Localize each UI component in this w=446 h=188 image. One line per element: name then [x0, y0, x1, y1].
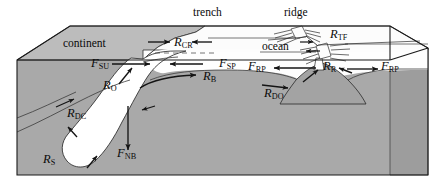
- label-continent: continent: [63, 38, 106, 50]
- block-diagram-figure: trench ridge continent ocean RCR RTF FSU…: [0, 0, 446, 188]
- label-R-TF-sub: TF: [338, 33, 348, 42]
- label-F-SU: FSU: [91, 57, 109, 70]
- label-F-RP-right-base: F: [381, 59, 389, 73]
- label-F-RP-left: FRP: [248, 60, 266, 73]
- label-R-B-base: R: [203, 69, 211, 83]
- label-R-DO-sub: DO: [272, 92, 284, 101]
- label-F-SP: FSP: [219, 57, 236, 70]
- label-F-NB-base: F: [117, 146, 125, 160]
- label-R-DC-sub: DC: [75, 112, 87, 121]
- label-F-NB: FNB: [117, 147, 136, 160]
- label-F-SP-base: F: [219, 56, 227, 70]
- label-R-CR: RCR: [174, 36, 193, 49]
- label-R-DO: RDO: [264, 87, 284, 100]
- label-R-TF: RTF: [330, 28, 347, 41]
- label-R-TF-base: R: [330, 27, 338, 41]
- label-R-O: RO: [103, 79, 117, 92]
- label-F-RP-right-sub: RP: [389, 65, 399, 74]
- label-F-RP-right: FRP: [381, 60, 399, 73]
- label-R-O-sub: O: [111, 84, 117, 93]
- label-R-DO-base: R: [264, 86, 272, 100]
- label-R-R-sub: R: [331, 65, 337, 74]
- label-R-DC: RDC: [67, 107, 86, 120]
- label-R-O-base: R: [103, 78, 111, 92]
- label-R-B-sub: B: [211, 75, 217, 84]
- label-R-R: RR: [323, 60, 336, 73]
- label-R-R-base: R: [323, 59, 331, 73]
- label-F-NB-sub: NB: [125, 152, 137, 161]
- label-R-S: RS: [43, 153, 55, 166]
- label-R-S-base: R: [43, 152, 51, 166]
- label-F-RP-left-base: F: [248, 59, 256, 73]
- block-diagram-canvas: [0, 0, 446, 188]
- label-F-RP-left-sub: RP: [256, 65, 266, 74]
- label-F-SU-sub: SU: [99, 62, 110, 71]
- label-R-DC-base: R: [67, 106, 75, 120]
- label-R-CR-base: R: [174, 35, 182, 49]
- label-ocean: ocean: [262, 41, 289, 53]
- label-R-CR-sub: CR: [182, 41, 193, 50]
- label-R-S-sub: S: [51, 158, 56, 167]
- label-trench: trench: [193, 7, 222, 19]
- label-F-SP-sub: SP: [227, 62, 236, 71]
- label-ridge: ridge: [284, 7, 308, 19]
- label-R-B: RB: [203, 70, 216, 83]
- label-F-SU-base: F: [91, 56, 99, 70]
